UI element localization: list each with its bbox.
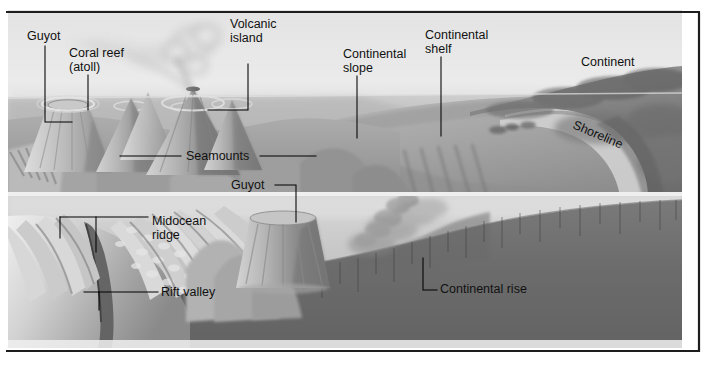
continental-shelf-label-line2: shelf <box>425 42 452 56</box>
guyot-lower-label: Guyot <box>231 178 265 192</box>
rift-valley-label: Rift valley <box>161 285 216 299</box>
guyot-upper-label: Guyot <box>27 29 61 43</box>
volcanic-island-label-line1: Volcanic <box>230 17 277 31</box>
continent-label: Continent <box>581 55 635 69</box>
diagram-canvas: Guyot Coral reef (atoll) Volcanic island… <box>0 0 708 372</box>
seamounts-label: Seamounts <box>186 149 249 163</box>
continental-shelf-label-line1: Continental <box>425 28 488 42</box>
continental-slope-label-line1: Continental <box>343 47 406 61</box>
midocean-ridge-label-line2: ridge <box>152 228 180 242</box>
continental-rise-label: Continental rise <box>440 282 527 296</box>
volcanic-island-label-line2: island <box>230 31 263 45</box>
coral-reef-atoll-label-line2: (atoll) <box>69 60 100 74</box>
coral-reef-atoll-label-line1: Coral reef <box>69 46 124 60</box>
continental-slope-label-line2: slope <box>343 61 373 75</box>
ocean-floor-diagram: Guyot Coral reef (atoll) Volcanic island… <box>0 0 708 372</box>
midocean-ridge-label-line1: Midocean <box>152 214 206 228</box>
